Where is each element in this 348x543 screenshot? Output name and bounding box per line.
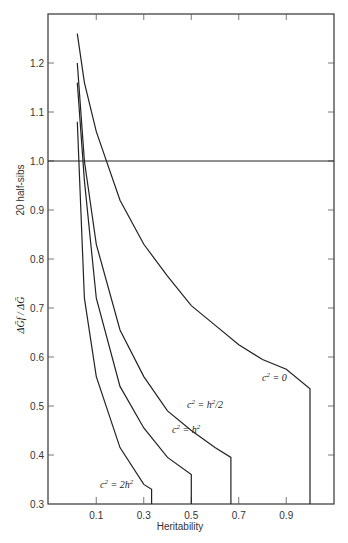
y-tick-label: 0.9 <box>30 205 44 216</box>
x-tick-label: 0.3 <box>137 510 151 521</box>
curve-label: c2 = h2/2 <box>187 398 223 410</box>
curve-label: c2 = h2 <box>172 423 201 435</box>
curve-label: c2 = 2h2 <box>100 478 134 490</box>
x-tick-label: 0.1 <box>89 510 103 521</box>
y-tick-label: 1.0 <box>30 156 44 167</box>
y-tick-label: 0.5 <box>30 401 44 412</box>
y-tick-label: 0.6 <box>30 352 44 363</box>
y-tick-label: 0.7 <box>30 303 44 314</box>
y-tick-label: 0.3 <box>30 499 44 510</box>
x-tick-label: 0.5 <box>184 510 198 521</box>
y-axis-ticks: 0.30.40.50.60.70.80.91.01.11.2 <box>30 58 334 510</box>
y-axis-title: ΔḠf / ΔḠ <box>15 297 26 335</box>
curve-label: c2 = 0 <box>262 371 287 383</box>
x-axis-title: Heritability <box>157 521 204 532</box>
y-tick-label: 0.8 <box>30 254 44 265</box>
chart: 0.10.30.50.70.9 0.30.40.50.60.70.80.91.0… <box>0 0 348 543</box>
curve-3 <box>77 122 151 504</box>
y-axis-secondary-title: 20 half-sibs <box>15 164 26 215</box>
x-axis-ticks: 0.10.30.50.70.9 <box>89 14 293 521</box>
y-tick-label: 1.2 <box>30 58 44 69</box>
curve-1 <box>77 63 231 504</box>
y-tick-label: 1.1 <box>30 107 44 118</box>
x-tick-label: 0.9 <box>279 510 293 521</box>
curve-2 <box>77 83 191 504</box>
x-tick-label: 0.7 <box>232 510 246 521</box>
curve-labels: c2 = 0c2 = h2/2c2 = h2c2 = 2h2 <box>100 371 287 490</box>
y-tick-label: 0.4 <box>30 450 44 461</box>
